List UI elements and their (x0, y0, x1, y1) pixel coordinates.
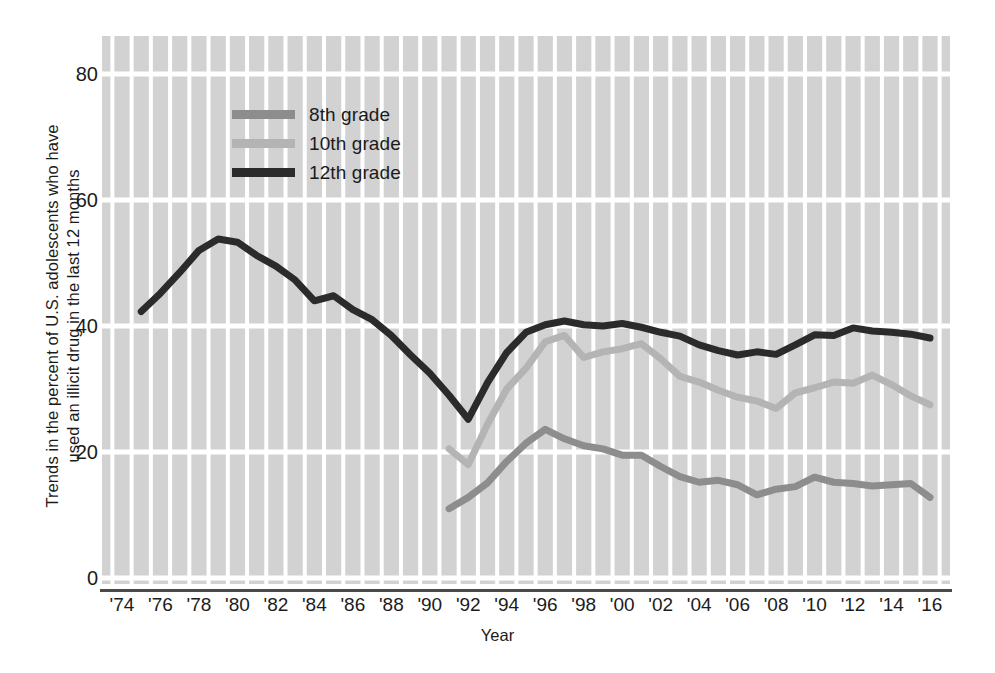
series-lines (102, 36, 950, 584)
x-tick-label-2002: '02 (648, 594, 673, 616)
legend-swatch-icon (232, 110, 295, 119)
x-tick-label-1976: '76 (148, 594, 173, 616)
plot-area (102, 36, 950, 584)
x-tick-label-1992: '92 (456, 594, 481, 616)
series-12th-grade (141, 239, 930, 419)
x-tick-label-1990: '90 (417, 594, 442, 616)
x-tick-label-1980: '80 (225, 594, 250, 616)
legend-item-8th-grade: 8th grade (232, 100, 472, 129)
y-tick-label-80: 80 (52, 63, 98, 86)
legend-item-10th-grade: 10th grade (232, 129, 472, 158)
x-tick-label-2012: '12 (841, 594, 866, 616)
chart-legend: 8th grade10th grade12th grade (232, 100, 472, 187)
y-tick-label-20: 20 (52, 441, 98, 464)
x-tick-label-2004: '04 (687, 594, 712, 616)
x-tick-label-2000: '00 (610, 594, 635, 616)
legend-swatch-icon (232, 139, 295, 148)
legend-label: 12th grade (309, 162, 401, 184)
y-axis-tick-labels: 806040200 (40, 0, 98, 673)
x-tick-label-1998: '98 (571, 594, 596, 616)
y-tick-label-0: 0 (52, 567, 98, 590)
x-tick-label-1988: '88 (379, 594, 404, 616)
x-tick-label-2016: '16 (918, 594, 943, 616)
legend-swatch-icon (232, 168, 295, 177)
x-tick-label-1978: '78 (187, 594, 212, 616)
x-tick-label-1996: '96 (533, 594, 558, 616)
legend-item-12th-grade: 12th grade (232, 158, 472, 187)
x-tick-label-2008: '08 (764, 594, 789, 616)
x-tick-label-1974: '74 (110, 594, 135, 616)
x-axis-line (100, 589, 952, 592)
x-axis-title: Year (0, 626, 995, 645)
legend-label: 10th grade (309, 133, 401, 155)
x-tick-label-1982: '82 (264, 594, 289, 616)
x-tick-label-2014: '14 (879, 594, 904, 616)
legend-label: 8th grade (309, 104, 390, 126)
x-tick-label-1994: '94 (494, 594, 519, 616)
x-tick-label-1986: '86 (340, 594, 365, 616)
x-tick-label-2006: '06 (725, 594, 750, 616)
series-8th-grade (449, 429, 930, 508)
x-tick-label-2010: '10 (802, 594, 827, 616)
x-axis-tick-labels: '74'76'78'80'82'84'86'88'90'92'94'96'98'… (102, 594, 950, 624)
line-chart: Trends in the percent of U.S. adolescent… (0, 0, 995, 673)
x-tick-label-1984: '84 (302, 594, 327, 616)
y-tick-label-40: 40 (52, 315, 98, 338)
y-tick-label-60: 60 (52, 189, 98, 212)
